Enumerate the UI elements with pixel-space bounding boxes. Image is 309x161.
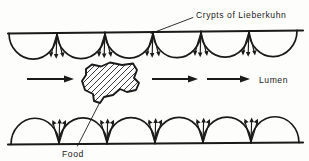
flow-arrow [207, 76, 250, 83]
villus-arrow [57, 34, 63, 55]
bottom-arch [11, 118, 59, 144]
intestinal-crypts-diagram: Crypts of Lieberkuhn Lumen Food [0, 0, 309, 161]
villus-arrow [200, 33, 201, 55]
arrowhead-icon [156, 51, 160, 56]
top-arch [105, 32, 153, 58]
food-label: Food [62, 149, 84, 159]
arrowhead-icon [145, 51, 149, 56]
hatch-line [133, 92, 146, 105]
food-leader-line [78, 103, 100, 146]
arrowhead-icon [240, 76, 250, 83]
villus-arrow [197, 122, 203, 143]
secretion-arrow-cluster [148, 118, 162, 143]
arrowhead-icon [49, 52, 53, 57]
top-arch [201, 31, 249, 57]
arrowhead-icon [188, 76, 198, 83]
arrowhead-icon [54, 54, 59, 59]
top-arch [9, 33, 57, 59]
secretion-arrow-cluster [100, 118, 114, 143]
arrowhead-icon [62, 120, 66, 125]
arrowhead-icon [52, 120, 56, 125]
bottom-arch [251, 117, 299, 143]
secretion-arrow-cluster [193, 33, 209, 58]
diagram-canvas: Crypts of Lieberkuhn Lumen Food [0, 0, 309, 161]
arrowhead-icon [249, 118, 254, 123]
secretion-arrow-cluster [241, 32, 257, 57]
arrowhead-icon [193, 51, 197, 56]
arrowhead-icon [148, 119, 152, 124]
villus-arrow [201, 33, 207, 54]
villus-arrow [104, 34, 105, 56]
bottom-arch [203, 117, 251, 143]
arrowhead-icon [102, 54, 107, 59]
bottom-wall-group [8, 103, 303, 146]
arrowhead-icon [201, 118, 206, 123]
secretion-arrow-cluster [145, 33, 161, 58]
villus-arrow [249, 32, 255, 53]
arrowhead-icon [252, 50, 256, 55]
top-wall-group [8, 18, 303, 60]
arrowhead-icon [206, 119, 210, 124]
arrowhead-icon [241, 50, 245, 55]
food-particle [70, 54, 146, 105]
bottom-arch [107, 118, 155, 144]
arrowhead-icon [97, 52, 101, 57]
arrowhead-icon [64, 76, 74, 83]
top-arch [249, 30, 297, 56]
secretion-arrow-cluster [49, 34, 65, 59]
arrowhead-icon [153, 118, 158, 123]
top-secretion-arrows [49, 32, 257, 59]
crypts-of-lieberkuhn-label: Crypts of Lieberkuhn [196, 10, 286, 20]
arrowhead-icon [57, 119, 62, 124]
arrowhead-icon [60, 52, 64, 57]
secretion-arrow-cluster [196, 118, 210, 143]
villus-arrow [245, 121, 251, 142]
secretion-arrow-cluster [52, 119, 66, 144]
villus-arrow [101, 122, 107, 143]
bottom-arch [155, 117, 203, 143]
bottom-secretion-arrows [52, 118, 258, 144]
arrowhead-icon [158, 119, 162, 124]
arrowhead-icon [254, 119, 258, 124]
villus-arrow [149, 122, 155, 143]
lumen-label: Lumen [259, 75, 288, 85]
arrowhead-icon [198, 53, 203, 58]
villus-arrow [152, 33, 153, 55]
arrowhead-icon [196, 119, 200, 124]
arrowhead-icon [108, 52, 112, 57]
arrowhead-icon [150, 53, 155, 58]
secretion-arrow-cluster [97, 34, 113, 59]
arrowhead-icon [204, 51, 208, 56]
villus-arrow [53, 123, 59, 144]
bottom-arch [59, 118, 107, 144]
flow-arrow [27, 76, 74, 83]
top-arch [153, 31, 201, 57]
arrowhead-icon [246, 52, 251, 57]
secretion-arrow-cluster [244, 118, 258, 143]
villus-arrow [105, 34, 111, 55]
arrowhead-icon [244, 119, 248, 124]
villus-arrow [56, 34, 57, 56]
villus-arrow [153, 33, 159, 54]
top-arch [57, 32, 105, 58]
food-particle-outline [82, 63, 139, 104]
flow-arrow [152, 76, 198, 83]
arrowhead-icon [110, 120, 114, 125]
villus-arrow [248, 32, 249, 54]
arrowhead-icon [100, 120, 104, 125]
arrowhead-icon [105, 118, 110, 123]
